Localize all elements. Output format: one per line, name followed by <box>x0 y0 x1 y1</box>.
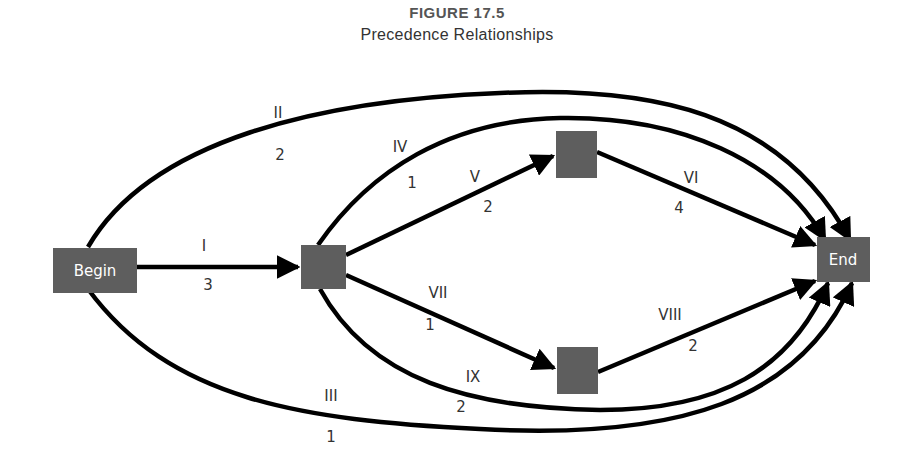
edge-V-duration: 2 <box>483 198 493 216</box>
edge-II-label: II <box>274 104 283 122</box>
edge-II-duration: 2 <box>275 146 285 164</box>
edge-VII-duration: 1 <box>425 316 435 334</box>
edge-IX-duration: 2 <box>456 398 466 416</box>
node-end: End <box>817 237 870 282</box>
edge-VIII-label: VIII <box>658 306 682 324</box>
edge-I-duration: 3 <box>203 276 213 294</box>
edge-III-duration: 1 <box>326 428 336 446</box>
edge-VI <box>597 152 815 245</box>
node-begin-label: Begin <box>74 262 117 280</box>
edge-VIII-duration: 2 <box>688 337 698 355</box>
edge-III-label: III <box>324 387 337 405</box>
edge-III <box>88 283 852 431</box>
node-end-label: End <box>829 251 858 269</box>
edge-V <box>346 156 553 255</box>
edge-VII-label: VII <box>428 284 447 302</box>
node-c <box>557 347 598 394</box>
edge-I-label: I <box>202 237 206 255</box>
edge-VI-label: VI <box>684 169 699 187</box>
node-begin: Begin <box>53 248 137 293</box>
edge-IV-label: IV <box>393 138 408 156</box>
node-b <box>556 131 597 178</box>
edge-V-label: V <box>470 168 481 186</box>
edge-VI-duration: 4 <box>674 199 684 217</box>
edge-IV-duration: 1 <box>407 174 417 192</box>
precedence-network-diagram: Begin End I 3 II 2 III 1 IV 1 V 2 VI 4 V… <box>0 0 914 475</box>
node-a <box>301 245 346 289</box>
edge-VIII <box>598 281 815 372</box>
edge-IX-label: IX <box>466 368 481 386</box>
